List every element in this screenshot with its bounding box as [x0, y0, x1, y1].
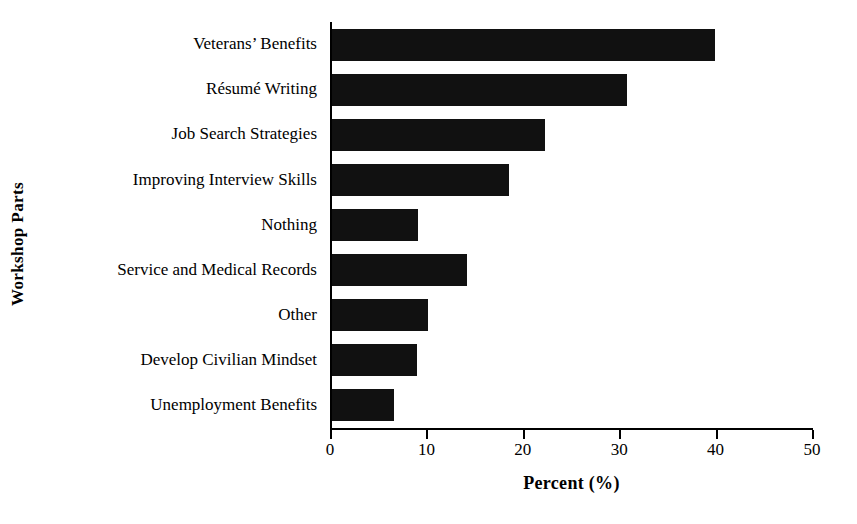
bar-row: Veterans’ Benefits — [0, 22, 857, 67]
category-label: Résumé Writing — [40, 67, 324, 112]
x-tick-label: 20 — [493, 440, 553, 460]
x-axis-line — [330, 428, 813, 430]
bar-row: Nothing — [0, 202, 857, 247]
bar — [332, 299, 428, 331]
category-label: Improving Interview Skills — [40, 157, 324, 202]
x-tick — [523, 430, 525, 439]
bar-row: Service and Medical Records — [0, 248, 857, 293]
bar-row: Develop Civilian Mindset — [0, 338, 857, 383]
x-tick — [812, 430, 814, 439]
category-label: Other — [40, 293, 324, 338]
x-tick — [619, 430, 621, 439]
bar — [332, 254, 467, 286]
bar — [332, 209, 418, 241]
bar-chart: Workshop Parts Veterans’ BenefitsRésumé … — [0, 0, 857, 524]
bar-row: Résumé Writing — [0, 67, 857, 112]
category-label: Nothing — [40, 202, 324, 247]
bar — [332, 344, 417, 376]
category-label: Service and Medical Records — [40, 248, 324, 293]
category-label: Veterans’ Benefits — [40, 22, 324, 67]
bar-row: Unemployment Benefits — [0, 383, 857, 428]
x-tick-label: 10 — [396, 440, 456, 460]
x-axis-title: Percent (%) — [330, 473, 813, 494]
bar-row: Other — [0, 293, 857, 338]
bar — [332, 29, 715, 61]
x-tick — [716, 430, 718, 439]
x-tick-label: 50 — [782, 440, 842, 460]
x-tick-label: 30 — [589, 440, 649, 460]
x-tick — [330, 430, 332, 439]
x-tick-label: 40 — [686, 440, 746, 460]
bar — [332, 74, 627, 106]
x-tick-label: 0 — [300, 440, 360, 460]
bar — [332, 389, 394, 421]
bar — [332, 164, 509, 196]
category-label: Job Search Strategies — [40, 112, 324, 157]
bar-row: Job Search Strategies — [0, 112, 857, 157]
category-label: Develop Civilian Mindset — [40, 338, 324, 383]
bar — [332, 119, 545, 151]
x-tick — [426, 430, 428, 439]
bar-row: Improving Interview Skills — [0, 157, 857, 202]
category-label: Unemployment Benefits — [40, 383, 324, 428]
